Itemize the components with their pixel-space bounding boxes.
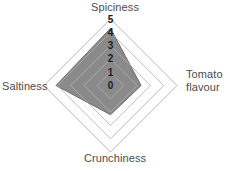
tick-label-5: 5: [103, 15, 119, 25]
tick-label-3: 3: [103, 41, 119, 51]
axis-label-tomato-flavour: Tomato flavour: [186, 68, 230, 93]
axis-label-tomato-line1: Tomato: [186, 68, 223, 80]
tick-label-2: 2: [103, 54, 119, 64]
tick-label-4: 4: [103, 28, 119, 38]
axis-label-tomato-line2: flavour: [186, 81, 220, 93]
tick-label-1: 1: [103, 68, 119, 78]
data-series-polygon-0: [56, 28, 141, 114]
axis-label-spiciness: Spiciness: [0, 1, 230, 14]
radar-chart: Spiciness Tomato flavour Crunchiness Sal…: [0, 0, 230, 171]
axis-label-saltiness: Saltiness: [2, 80, 60, 93]
tick-label-0: 0: [103, 81, 119, 91]
axis-label-crunchiness: Crunchiness: [0, 152, 230, 165]
